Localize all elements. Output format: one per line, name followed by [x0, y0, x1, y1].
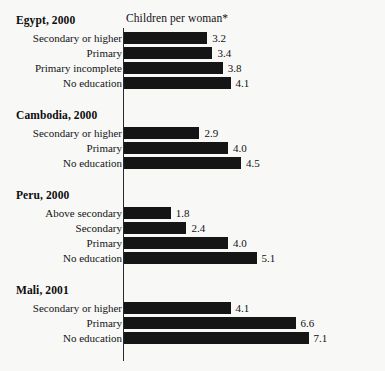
bar [124, 252, 257, 264]
bar-value-label: 2.4 [191, 221, 205, 235]
bar-value-label: 6.6 [301, 316, 315, 330]
bar-value-label: 7.1 [314, 331, 328, 345]
bar-row: Secondary or higher2.9 [0, 126, 385, 141]
bar-value-label: 5.1 [262, 251, 276, 265]
bar-row-label: No education [0, 251, 122, 266]
bar-row: Above secondary1.8 [0, 206, 385, 221]
bar [124, 207, 171, 219]
bar-row-label: No education [0, 76, 122, 91]
bar [124, 302, 231, 314]
bar [124, 47, 212, 59]
bar [124, 77, 231, 89]
bar-container: 2.4 [124, 222, 186, 235]
bar-row-label: Primary [0, 236, 122, 251]
bar-row-label: Secondary or higher [0, 301, 122, 316]
bar-row-label: No education [0, 331, 122, 346]
bar-row: No education4.1 [0, 76, 385, 91]
bar-row-label: No education [0, 156, 122, 171]
bar-container: 7.1 [124, 332, 309, 345]
bar-row-label: Primary incomplete [0, 61, 122, 76]
axis-title: Children per woman* [126, 12, 228, 24]
bar-container: 3.4 [124, 47, 212, 60]
bar-value-label: 4.1 [236, 76, 250, 90]
bar [124, 317, 296, 329]
bar-row: No education5.1 [0, 251, 385, 266]
bar-value-label: 3.8 [228, 61, 242, 75]
bar [124, 32, 207, 44]
bar-container: 4.1 [124, 77, 231, 90]
bar [124, 62, 223, 74]
bar-container: 2.9 [124, 127, 199, 140]
bar [124, 142, 228, 154]
bar-row: Primary4.0 [0, 236, 385, 251]
bar-row-label: Secondary or higher [0, 126, 122, 141]
bar-row: No education4.5 [0, 156, 385, 171]
bar [124, 157, 241, 169]
bar-row: Primary6.6 [0, 316, 385, 331]
bar-row-label: Primary [0, 141, 122, 156]
bar-row: Primary3.4 [0, 46, 385, 61]
bar-container: 4.0 [124, 142, 228, 155]
bar-row: Primary4.0 [0, 141, 385, 156]
bar-value-label: 4.0 [233, 236, 247, 250]
group-title: Egypt, 2000 [16, 14, 75, 26]
bar-row-label: Primary [0, 316, 122, 331]
group-title: Cambodia, 2000 [16, 109, 97, 121]
bar-row-label: Secondary or higher [0, 31, 122, 46]
bar-value-label: 4.0 [233, 141, 247, 155]
bar [124, 332, 309, 344]
bar-value-label: 1.8 [176, 206, 190, 220]
group-title: Mali, 2001 [16, 284, 69, 296]
bar-row: Secondary2.4 [0, 221, 385, 236]
bar [124, 237, 228, 249]
fertility-by-education-chart: Children per woman* Egypt, 2000Secondary… [0, 0, 385, 371]
bar [124, 222, 186, 234]
bar-row: Primary incomplete3.8 [0, 61, 385, 76]
bar-container: 4.1 [124, 302, 231, 315]
bar-row-label: Primary [0, 46, 122, 61]
bar-value-label: 4.1 [236, 301, 250, 315]
bar-container: 4.5 [124, 157, 241, 170]
bar-value-label: 3.2 [212, 31, 226, 45]
bar-value-label: 4.5 [246, 156, 260, 170]
bar [124, 127, 199, 139]
bar-container: 3.8 [124, 62, 223, 75]
bar-value-label: 3.4 [217, 46, 231, 60]
bar-row: Secondary or higher3.2 [0, 31, 385, 46]
bar-container: 6.6 [124, 317, 296, 330]
bar-container: 4.0 [124, 237, 228, 250]
bar-value-label: 2.9 [204, 126, 218, 140]
group-title: Peru, 2000 [16, 189, 69, 201]
bar-row: Secondary or higher4.1 [0, 301, 385, 316]
bar-container: 1.8 [124, 207, 171, 220]
bar-container: 3.2 [124, 32, 207, 45]
bar-row-label: Secondary [0, 221, 122, 236]
bar-row: No education7.1 [0, 331, 385, 346]
bar-row-label: Above secondary [0, 206, 122, 221]
bar-container: 5.1 [124, 252, 257, 265]
